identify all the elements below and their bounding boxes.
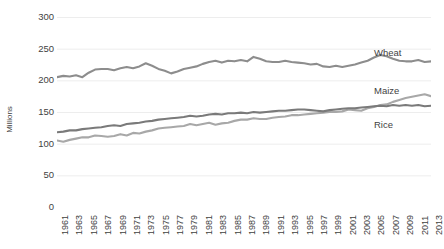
x-axis-tick-label: 1995 <box>306 215 315 235</box>
y-axis-tick-labels: 300250200150100500 <box>18 0 54 249</box>
x-axis-tick-label: 2005 <box>377 215 386 235</box>
y-axis-tick-label: 50 <box>20 170 54 180</box>
y-axis-tick-label: 0 <box>20 202 54 212</box>
x-axis-tick-label: 1965 <box>90 215 99 235</box>
x-axis-tick-label: 1985 <box>234 215 243 235</box>
x-axis-tick-label: 1983 <box>219 215 228 235</box>
x-axis-tick-label: 1963 <box>75 215 84 235</box>
x-axis-tick-label: 2011 <box>421 216 430 235</box>
x-axis-tick-label: 1989 <box>262 215 271 235</box>
plot-area <box>57 17 431 207</box>
x-axis-tick-label: 1999 <box>334 215 343 235</box>
y-axis-tick-label: 150 <box>20 107 54 117</box>
series-line-wheat <box>57 55 431 77</box>
series-label-wheat: Wheat <box>374 47 401 58</box>
x-axis-tick-label: 1971 <box>133 215 142 235</box>
x-axis-tick-label: 2009 <box>406 215 415 235</box>
x-axis-tick-label: 2003 <box>363 215 372 235</box>
x-axis-tick-label: 1977 <box>176 215 185 235</box>
series-label-maize: Maize <box>374 85 399 96</box>
y-axis-tick-label: 200 <box>20 75 54 85</box>
plot-svg <box>57 17 431 207</box>
y-axis-title: Millions <box>5 94 14 146</box>
x-axis-tick-labels: 1961196319651967196919711973197519771979… <box>57 209 431 249</box>
x-axis-tick-label: 1969 <box>119 215 128 235</box>
x-axis-tick-label: 1981 <box>205 215 214 235</box>
x-axis-tick-label: 1979 <box>190 215 199 235</box>
x-axis-tick-label: 1987 <box>248 215 257 235</box>
y-axis-tick-label: 250 <box>20 44 54 54</box>
y-axis-tick-label: 300 <box>20 12 54 22</box>
x-axis-tick-label: 2007 <box>392 215 401 235</box>
x-axis-tick-label: 1993 <box>291 215 300 235</box>
x-axis-tick-label: 1975 <box>162 215 171 235</box>
x-axis-tick-label: 1997 <box>320 215 329 235</box>
x-axis-tick-label: 2013 <box>435 215 444 235</box>
y-axis-tick-label: 100 <box>20 139 54 149</box>
x-axis-tick-label: 1973 <box>147 215 156 235</box>
x-axis-tick-label: 1991 <box>277 215 286 235</box>
x-axis-tick-label: 2001 <box>349 215 358 235</box>
x-axis-tick-label: 1967 <box>104 215 113 235</box>
series-label-rice: Rice <box>374 119 393 130</box>
x-axis-tick-label: 1961 <box>61 215 70 235</box>
